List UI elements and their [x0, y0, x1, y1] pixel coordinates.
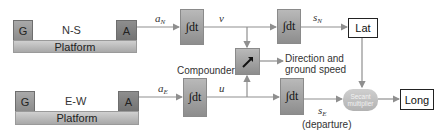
lat-output-box: Lat — [348, 18, 378, 38]
integral-symbol: ∫dt — [286, 89, 299, 104]
long-output-box: Long — [400, 89, 434, 110]
lat-label: Lat — [355, 22, 370, 34]
signal-v: v — [219, 12, 224, 24]
ew-platform-bar: Platform — [15, 111, 139, 125]
integrator-sn-block: ∫dt — [277, 9, 301, 44]
arrow-up-right-icon — [240, 54, 256, 70]
ns-gyro-label: G — [19, 25, 28, 37]
ew-gyro-label: G — [21, 96, 30, 108]
ew-accel-label: A — [125, 96, 132, 108]
integrator-u-block: ∫dt — [183, 78, 207, 117]
long-label: Long — [405, 94, 429, 106]
ns-platform-bar: Platform — [13, 40, 137, 53]
ns-axis-label: N-S — [62, 24, 81, 36]
signal-u: u — [219, 82, 225, 94]
compounder-block — [235, 48, 260, 75]
integral-symbol: ∫dt — [189, 90, 202, 105]
ns-gyro-box: G — [13, 20, 33, 41]
signal-a-n: aN — [155, 12, 165, 26]
ns-accelerometer-box: A — [116, 20, 137, 41]
ew-axis-label: E-W — [65, 95, 86, 107]
signal-s-e: sE — [318, 104, 327, 118]
ew-platform-label: Platform — [57, 112, 98, 124]
integral-symbol: ∫dt — [283, 19, 296, 34]
signal-s-n: sN — [313, 11, 322, 25]
integrator-v-block: ∫dt — [180, 9, 204, 45]
secant-multiplier-block: Secant multiplier — [343, 89, 378, 111]
direction-ground-speed-label: Direction and ground speed — [285, 53, 346, 75]
ns-accel-label: A — [123, 25, 130, 37]
integrator-se-block: ∫dt — [280, 78, 304, 115]
signal-a-e: aE — [158, 82, 168, 96]
compounder-label: Compounder — [177, 65, 235, 76]
ew-gyro-box: G — [15, 91, 35, 112]
departure-label: (departure) — [302, 119, 351, 130]
ew-accelerometer-box: A — [118, 91, 139, 112]
ns-platform-label: Platform — [55, 41, 96, 53]
integral-symbol: ∫dt — [186, 20, 199, 35]
